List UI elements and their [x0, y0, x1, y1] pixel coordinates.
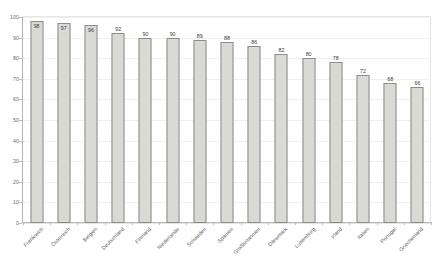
bar[interactable] [329, 62, 342, 223]
x-tick-mark [50, 222, 51, 225]
bar[interactable] [30, 21, 43, 223]
bar-value-label: 66 [414, 80, 420, 86]
y-tick-label: 30 [0, 158, 19, 164]
x-tick-mark [404, 222, 405, 225]
bar-value-label: 68 [387, 76, 393, 82]
bar[interactable] [302, 58, 315, 223]
x-tick-mark [268, 222, 269, 225]
y-tick-mark [19, 17, 22, 18]
bar-slot: 66 [404, 17, 431, 223]
x-tick-mark [159, 222, 160, 225]
bar-value-label: 88 [224, 35, 230, 41]
x-tick-mark [77, 222, 78, 225]
x-tick-mark [431, 222, 432, 225]
bar-chart: 0102030405060708090100 98979692909089888… [0, 0, 439, 273]
bar[interactable] [166, 38, 179, 223]
x-tick-mark [377, 222, 378, 225]
bar-slot: 97 [50, 17, 77, 223]
bar-slot: 92 [105, 17, 132, 223]
y-tick-label: 100 [0, 14, 19, 20]
x-tick-mark [132, 222, 133, 225]
bar[interactable] [384, 83, 397, 223]
x-tick-mark [349, 222, 350, 225]
x-tick-mark [186, 222, 187, 225]
y-tick-label: 70 [0, 76, 19, 82]
bar-value-label: 92 [115, 26, 121, 32]
bar-value-label: 97 [61, 25, 67, 31]
bar-slot: 86 [241, 17, 268, 223]
bar-slot: 80 [295, 17, 322, 223]
bar[interactable] [112, 33, 125, 223]
bar[interactable] [220, 42, 233, 223]
y-tick-label: 0 [0, 220, 19, 226]
bar[interactable] [248, 46, 261, 223]
bar[interactable] [275, 54, 288, 223]
x-tick-mark [241, 222, 242, 225]
y-tick-mark [19, 120, 22, 121]
x-tick-mark [295, 222, 296, 225]
bar[interactable] [193, 40, 206, 223]
bar-value-label: 98 [34, 23, 40, 29]
y-tick-label: 40 [0, 138, 19, 144]
bar-value-label: 72 [360, 68, 366, 74]
y-tick-mark [19, 202, 22, 203]
y-tick-mark [19, 58, 22, 59]
y-tick-label: 10 [0, 199, 19, 205]
bar-value-label: 80 [306, 51, 312, 57]
x-axis-category-labels: FrankreichÖsterreichBelgienDeutschlandFi… [23, 226, 431, 273]
bar-value-label: 90 [142, 31, 148, 37]
bars-area: 989796929090898886828078726866 [23, 17, 431, 223]
y-tick-label: 90 [0, 35, 19, 41]
y-tick-label: 80 [0, 55, 19, 61]
x-tick-mark [322, 222, 323, 225]
bar-slot: 98 [23, 17, 50, 223]
y-tick-mark [19, 141, 22, 142]
bar-value-label: 90 [170, 31, 176, 37]
bar[interactable] [356, 75, 369, 223]
bar-slot: 72 [349, 17, 376, 223]
bar-slot: 78 [322, 17, 349, 223]
x-tick-mark [23, 222, 24, 225]
y-tick-mark [19, 223, 22, 224]
y-tick-label: 50 [0, 117, 19, 123]
bar-slot: 96 [77, 17, 104, 223]
y-tick-label: 60 [0, 96, 19, 102]
bar-value-label: 82 [278, 47, 284, 53]
bar[interactable] [57, 23, 70, 223]
bar-slot: 89 [186, 17, 213, 223]
bar-slot: 88 [213, 17, 240, 223]
bar-slot: 90 [132, 17, 159, 223]
y-tick-label: 20 [0, 179, 19, 185]
bar-value-label: 78 [333, 55, 339, 61]
bar-slot: 68 [377, 17, 404, 223]
bar-value-label: 86 [251, 39, 257, 45]
y-tick-mark [19, 161, 22, 162]
bar[interactable] [139, 38, 152, 223]
x-tick-mark [105, 222, 106, 225]
y-tick-mark [19, 182, 22, 183]
bar-slot: 90 [159, 17, 186, 223]
y-tick-mark [19, 38, 22, 39]
y-axis-tick-labels: 0102030405060708090100 [0, 0, 19, 273]
bar-value-label: 96 [88, 27, 94, 33]
bar-value-label: 89 [197, 33, 203, 39]
bar[interactable] [84, 25, 97, 223]
bar[interactable] [411, 87, 424, 223]
bar-slot: 82 [268, 17, 295, 223]
x-tick-mark [213, 222, 214, 225]
y-tick-mark [19, 79, 22, 80]
y-tick-mark [19, 99, 22, 100]
